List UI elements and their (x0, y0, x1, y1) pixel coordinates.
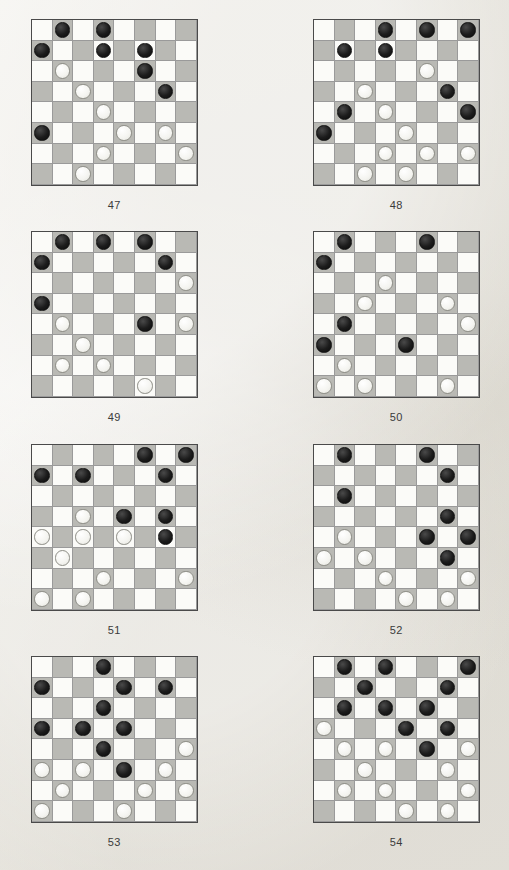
board-square[interactable] (32, 376, 53, 397)
board-square[interactable] (314, 335, 335, 356)
white-piece[interactable] (96, 146, 112, 162)
board-square[interactable] (438, 123, 459, 144)
board-square[interactable] (335, 356, 356, 377)
board-square[interactable] (114, 527, 135, 548)
board-square[interactable] (417, 314, 438, 335)
board-square[interactable] (135, 232, 156, 253)
board-square[interactable] (176, 739, 197, 760)
board-square[interactable] (135, 102, 156, 123)
board-square[interactable] (114, 507, 135, 528)
board-square[interactable] (94, 82, 115, 103)
board-square[interactable] (94, 657, 115, 678)
board-square[interactable] (458, 253, 479, 274)
board-square[interactable] (417, 253, 438, 274)
board-square[interactable] (32, 760, 53, 781)
board-square[interactable] (94, 376, 115, 397)
board-square[interactable] (458, 273, 479, 294)
board-square[interactable] (73, 657, 94, 678)
board-square[interactable] (458, 719, 479, 740)
board-square[interactable] (135, 41, 156, 62)
black-piece[interactable] (337, 316, 353, 332)
board-square[interactable] (335, 760, 356, 781)
board-square[interactable] (176, 294, 197, 315)
board-square[interactable] (458, 698, 479, 719)
board-square[interactable] (114, 376, 135, 397)
board-square[interactable] (417, 760, 438, 781)
white-piece[interactable] (75, 509, 91, 525)
white-piece[interactable] (316, 721, 332, 737)
board-square[interactable] (94, 760, 115, 781)
black-piece[interactable] (34, 255, 50, 271)
board-square[interactable] (156, 20, 177, 41)
board-square[interactable] (438, 376, 459, 397)
board-square[interactable] (53, 20, 74, 41)
board-square[interactable] (94, 273, 115, 294)
board-square[interactable] (396, 445, 417, 466)
board-square[interactable] (355, 356, 376, 377)
black-piece[interactable] (337, 700, 353, 716)
board-square[interactable] (135, 589, 156, 610)
black-piece[interactable] (316, 337, 332, 353)
white-piece[interactable] (158, 762, 174, 778)
board-square[interactable] (438, 356, 459, 377)
board-square[interactable] (135, 61, 156, 82)
white-piece[interactable] (357, 378, 373, 394)
board-square[interactable] (376, 294, 397, 315)
board-square[interactable] (156, 82, 177, 103)
black-piece[interactable] (55, 22, 71, 38)
white-piece[interactable] (378, 104, 394, 120)
board-square[interactable] (114, 569, 135, 590)
white-piece[interactable] (75, 762, 91, 778)
black-piece[interactable] (96, 22, 112, 38)
board-square[interactable] (355, 232, 376, 253)
board-square[interactable] (94, 719, 115, 740)
white-piece[interactable] (378, 146, 394, 162)
board-square[interactable] (314, 760, 335, 781)
board-square[interactable] (417, 698, 438, 719)
board-square[interactable] (396, 253, 417, 274)
board-square[interactable] (458, 657, 479, 678)
board-square[interactable] (355, 164, 376, 185)
board-square[interactable] (417, 781, 438, 802)
board-square[interactable] (135, 486, 156, 507)
black-piece[interactable] (34, 125, 50, 141)
white-piece[interactable] (440, 296, 456, 312)
board-square[interactable] (438, 294, 459, 315)
board-square[interactable] (73, 739, 94, 760)
black-piece[interactable] (137, 447, 153, 463)
board-square[interactable] (376, 698, 397, 719)
board-square[interactable] (355, 678, 376, 699)
board-square[interactable] (135, 548, 156, 569)
board-square[interactable] (156, 123, 177, 144)
board-square[interactable] (355, 335, 376, 356)
board-square[interactable] (114, 698, 135, 719)
board-square[interactable] (335, 144, 356, 165)
board-square[interactable] (355, 273, 376, 294)
board-square[interactable] (32, 82, 53, 103)
black-piece[interactable] (337, 447, 353, 463)
white-piece[interactable] (357, 84, 373, 100)
board-square[interactable] (417, 801, 438, 822)
board-square[interactable] (438, 569, 459, 590)
board-square[interactable] (355, 801, 376, 822)
board-square[interactable] (376, 719, 397, 740)
board-square[interactable] (376, 678, 397, 699)
board-square[interactable] (458, 801, 479, 822)
board-square[interactable] (176, 548, 197, 569)
board-square[interactable] (176, 507, 197, 528)
board-square[interactable] (114, 164, 135, 185)
white-piece[interactable] (178, 316, 194, 332)
black-piece[interactable] (419, 22, 435, 38)
board-square[interactable] (355, 739, 376, 760)
board-square[interactable] (32, 739, 53, 760)
board-square[interactable] (458, 739, 479, 760)
board-square[interactable] (73, 548, 94, 569)
white-piece[interactable] (75, 166, 91, 182)
black-piece[interactable] (378, 700, 394, 716)
board-square[interactable] (355, 82, 376, 103)
board-square[interactable] (156, 507, 177, 528)
board-square[interactable] (314, 294, 335, 315)
black-piece[interactable] (158, 255, 174, 271)
board-square[interactable] (417, 719, 438, 740)
board-square[interactable] (376, 657, 397, 678)
